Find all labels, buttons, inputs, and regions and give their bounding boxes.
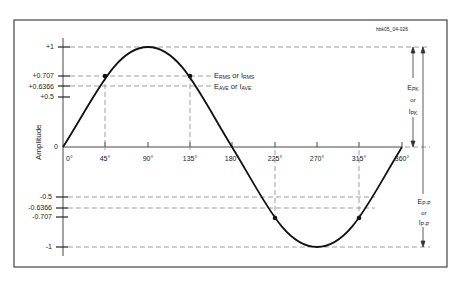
y-tick-label: -0.5 [6,193,52,200]
y-tick-label: 0 [12,143,58,150]
figure-id: hbk05_04-026 [376,27,408,32]
peak-to-peak-label: EP-P or IP-P [413,197,435,229]
x-tick-label: 45° [100,155,111,162]
y-tick-label: -0.707 [6,213,52,220]
y-tick-label: +0.707 [8,72,54,79]
x-tick-label: 0° [66,155,73,162]
x-tick-label: 270° [310,155,324,162]
y-tick-label: -1 [6,243,52,250]
y-tick-label: +0.6366 [8,83,54,90]
x-tick-label: 360° [395,155,409,162]
y-tick-label: +1 [8,43,54,50]
x-tick-label: 225° [268,155,282,162]
x-tick-label: 135° [183,155,197,162]
rms-label: ERMS or IRMS [214,72,254,80]
x-tick-label: 90° [143,155,154,162]
x-tick-label: 180° [225,155,239,162]
x-tick-label: 315° [352,155,366,162]
ave-label: EAVE or IAVE [214,83,251,91]
y-tick-label: +0.5 [8,93,54,100]
x-ticks [105,142,402,147]
sine-wave-diagram [0,0,459,284]
y-tick-label: -0.6366 [6,204,52,211]
peak-label: EPK or IPK [402,82,424,119]
